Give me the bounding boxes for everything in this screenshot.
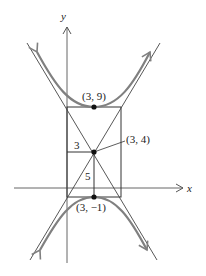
center-label: (3, 4)	[126, 133, 150, 146]
center-point	[91, 149, 96, 154]
upper-vertex-point	[91, 104, 96, 109]
vertical-dimension-label: 5	[85, 170, 91, 182]
lower-vertex-point	[91, 194, 96, 199]
horizontal-dimension-label: 3	[74, 139, 80, 151]
upper-vertex-label: (3, 9)	[82, 90, 106, 103]
center-leader-line	[94, 141, 125, 152]
lower-vertex-label: (3, −1)	[76, 201, 106, 214]
hyperbola-diagram: y x (3, 9) (3, 4) (3, −1) 3 5	[0, 0, 206, 276]
x-axis-label: x	[186, 182, 192, 194]
y-axis-label: y	[60, 10, 66, 22]
